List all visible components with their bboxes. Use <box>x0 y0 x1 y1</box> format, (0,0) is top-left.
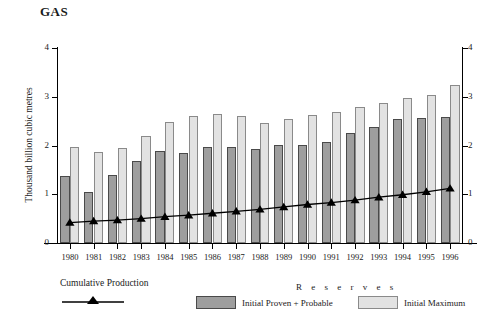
y-tick-label-r: 0 <box>468 237 490 247</box>
y-tick-label-r: 2 <box>468 140 490 150</box>
x-tick <box>403 244 404 249</box>
legend-reserves-heading: R e s e r v e s <box>296 282 397 292</box>
x-tick <box>141 244 142 249</box>
y-tick-l <box>52 48 57 49</box>
legend-cumulative-label: Cumulative Production <box>60 278 148 288</box>
legend-swatch-initial-maximum <box>358 296 398 309</box>
x-tick <box>450 244 451 249</box>
legend-swatch-proven-probable <box>196 296 236 309</box>
y-tick-l <box>52 97 57 98</box>
y-tick-label-r: 1 <box>468 188 490 198</box>
x-tick <box>379 244 380 249</box>
y-tick-label-r: 4 <box>468 42 490 52</box>
cumulative-production-line <box>58 48 462 243</box>
x-tick <box>165 244 166 249</box>
x-tick <box>70 244 71 249</box>
legend-label-proven-probable: Initial Proven + Probable <box>242 298 333 308</box>
x-tick <box>212 244 213 249</box>
x-tick <box>236 244 237 249</box>
y-tick-l <box>52 243 57 244</box>
x-tick <box>426 244 427 249</box>
y-tick-label-r: 3 <box>468 91 490 101</box>
y-tick-label-l: 3 <box>27 91 49 101</box>
x-tick <box>117 244 118 249</box>
x-tick <box>308 244 309 249</box>
x-tick <box>284 244 285 249</box>
legend-cumulative-marker-icon <box>60 294 126 308</box>
x-tick <box>331 244 332 249</box>
x-tick <box>355 244 356 249</box>
y-tick-label-l: 1 <box>27 188 49 198</box>
y-tick-l <box>52 194 57 195</box>
y-tick-l <box>52 146 57 147</box>
x-tick <box>189 244 190 249</box>
x-tick <box>94 244 95 249</box>
page-title: GAS <box>40 4 68 20</box>
x-tick-label: 1996 <box>435 252 465 262</box>
y-tick-label-l: 2 <box>27 140 49 150</box>
x-tick <box>260 244 261 249</box>
gas-reserves-chart: GAS Thousand billion cubic metres 001122… <box>0 0 502 323</box>
y-tick-label-l: 4 <box>27 42 49 52</box>
y-tick-label-l: 0 <box>27 237 49 247</box>
legend-label-initial-maximum: Initial Maximum <box>404 298 465 308</box>
